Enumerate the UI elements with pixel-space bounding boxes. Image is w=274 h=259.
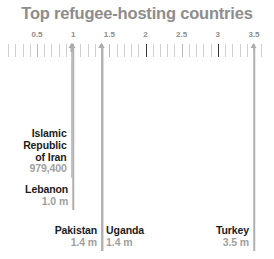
country-value: 1.4 m (106, 237, 144, 249)
axis-tick-label: 3 (216, 30, 220, 39)
axis-tick (23, 44, 24, 57)
country-value: 1.4 m (55, 237, 97, 249)
chart-title: Top refugee-hosting countries (0, 4, 274, 23)
axis-tick (59, 44, 60, 57)
country-value-line (72, 46, 74, 210)
axis-tick-label: 3.5 (248, 30, 259, 39)
axis-tick (196, 44, 197, 57)
axis-tick (80, 44, 81, 57)
axis-tick (218, 44, 220, 57)
axis-tick (261, 44, 262, 57)
country-name: Islamic (23, 128, 67, 140)
axis-tick (109, 44, 110, 57)
country-value-line (101, 46, 103, 251)
axis-tick (203, 44, 204, 57)
country-label: Lebanon1.0 m (25, 184, 68, 208)
axis-tick (189, 44, 190, 57)
axis-tick (8, 44, 9, 57)
axis-tick-label: 2 (143, 30, 147, 39)
country-name: Republic (23, 140, 67, 152)
country-label: IslamicRepublicof Iran979,400 (23, 128, 67, 175)
country-value: 979,400 (23, 163, 67, 175)
country-label: Turkey3.5 m (216, 225, 249, 249)
axis-tick (240, 44, 241, 57)
axis-tick-label: 1 (71, 30, 75, 39)
value-axis: 0.511.522.533.5 (0, 30, 274, 60)
axis-tick (131, 44, 132, 57)
axis-tick (232, 44, 233, 57)
country-name: Pakistan (55, 225, 97, 237)
country-value: 1.0 m (25, 196, 68, 208)
country-label: Pakistan1.4 m (55, 225, 97, 249)
axis-tick (95, 44, 96, 57)
axis-tick (146, 44, 148, 57)
axis-tick (124, 44, 125, 57)
axis-tick (167, 44, 168, 57)
axis-tick (88, 44, 89, 57)
axis-tick-label: 1.5 (104, 30, 115, 39)
axis-tick (15, 44, 16, 57)
country-label: Uganda1.4 m (106, 225, 144, 249)
country-name: Uganda (106, 225, 144, 237)
country-value-line (253, 46, 255, 251)
axis-tick (174, 44, 175, 57)
axis-tick-label: 2.5 (176, 30, 187, 39)
axis-tick (225, 44, 226, 57)
axis-tick (153, 44, 154, 57)
axis-tick (44, 44, 45, 57)
axis-tick (51, 44, 52, 57)
axis-tick (37, 44, 38, 57)
axis-tick (182, 44, 183, 57)
axis-tick (138, 44, 139, 57)
country-name: Lebanon (25, 184, 68, 196)
country-name: Turkey (216, 225, 249, 237)
axis-tick (247, 44, 248, 57)
chart-container: Top refugee-hosting countries 0.511.522.… (0, 0, 274, 259)
axis-tick-label: 0.5 (31, 30, 42, 39)
axis-tick (211, 44, 212, 57)
axis-tick (117, 44, 118, 57)
axis-tick (30, 44, 31, 57)
axis-tick (160, 44, 161, 57)
country-value: 3.5 m (216, 237, 249, 249)
